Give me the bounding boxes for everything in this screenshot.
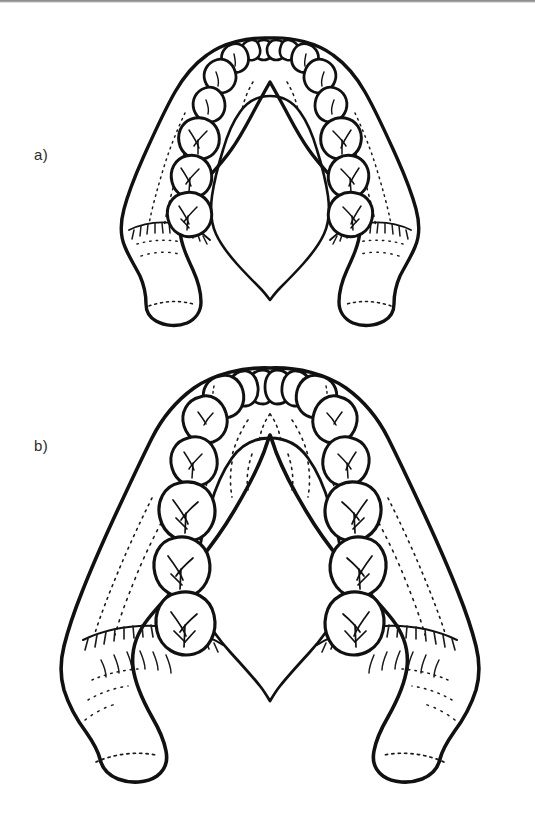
figure-a-mandible-narrow [85, 18, 455, 348]
tooth-third-molar-left [156, 592, 215, 655]
scan-edge-artifact [0, 0, 535, 3]
tooth-first-molar-left [179, 118, 220, 160]
figure-b-mandible-wide [40, 350, 500, 805]
tooth-third-molar-left [167, 192, 211, 236]
tooth-third-molar-right [325, 592, 384, 655]
tooth-first-molar-right [321, 118, 362, 160]
mandible-outline-b [61, 368, 479, 782]
tooth-third-molar-right [328, 192, 372, 236]
mandible-outline-a [121, 38, 419, 326]
tooth-first-molar-left [159, 482, 215, 541]
tooth-first-molar-right [325, 482, 381, 541]
tooth-second-premolar-right [323, 437, 369, 486]
figure-page: a) [0, 0, 535, 819]
tooth-second-molar-left [154, 537, 210, 597]
tooth-second-molar-right [330, 537, 386, 597]
tooth-second-premolar-left [171, 437, 217, 486]
figure-label-a: a) [34, 146, 48, 163]
